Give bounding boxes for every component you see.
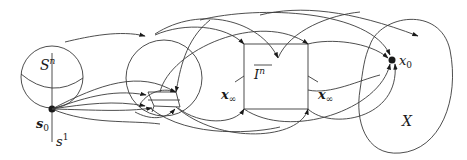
label-x-inf-left: x∞ bbox=[220, 87, 236, 104]
label-cube: In bbox=[253, 66, 265, 82]
label-sphere: Sn bbox=[40, 56, 56, 73]
label-circle-s1: s1 bbox=[56, 132, 68, 149]
target-point-x0 bbox=[389, 57, 396, 64]
label-space-x: X bbox=[401, 113, 413, 129]
label-base-point: s0 bbox=[36, 116, 49, 133]
arrow-sphere-to-disk bbox=[65, 34, 145, 42]
mapping-diagram: Sn s0 s1 In x∞ x∞ x0 X bbox=[0, 0, 467, 160]
arrows-inside-disk bbox=[135, 20, 210, 118]
space-x-blob bbox=[359, 19, 453, 153]
label-target-point: x0 bbox=[399, 53, 412, 70]
